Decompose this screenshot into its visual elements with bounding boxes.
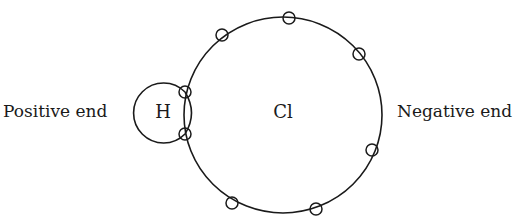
- positive-end-label: Positive end: [3, 103, 107, 120]
- electron-icon: [283, 12, 295, 24]
- shared-electron-icon: [179, 86, 191, 98]
- hydrogen-symbol: H: [155, 103, 171, 121]
- shared-electron-icon: [179, 128, 191, 140]
- negative-end-label: Negative end: [397, 103, 512, 120]
- electron-icon: [366, 144, 378, 156]
- electron-icon: [216, 29, 228, 41]
- chlorine-symbol: Cl: [273, 103, 293, 121]
- electron-icon: [310, 203, 322, 215]
- electron-icon: [226, 197, 238, 209]
- electron-icon: [353, 48, 365, 60]
